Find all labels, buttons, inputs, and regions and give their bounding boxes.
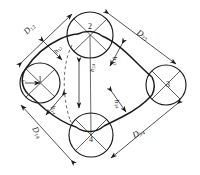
pulley-number-1: 1	[38, 76, 42, 84]
pulley-number-3: 3	[166, 81, 170, 89]
pulley-number-4: 4	[89, 136, 93, 144]
pulley-circles	[20, 12, 186, 157]
label-h24: h24	[89, 64, 96, 72]
dimension-line-D14	[21, 105, 71, 160]
pulley-number-2: 2	[88, 23, 92, 31]
construction-arc	[64, 45, 73, 126]
label-r1: r1	[22, 78, 27, 85]
figure-canvas: D12 D23 D34 D14 h12 h23 h34 h14 h24 r1 1…	[0, 0, 200, 175]
pulley-axes	[26, 19, 180, 151]
center-line-vertical	[90, 35, 91, 135]
